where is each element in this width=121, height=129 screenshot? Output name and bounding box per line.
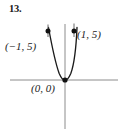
left-point-marker [46, 29, 51, 34]
right-point-marker [72, 29, 77, 34]
origin-point-label: (0, 0) [31, 83, 55, 94]
right-point-label: (1, 5) [77, 29, 101, 40]
origin-point-marker [62, 77, 67, 82]
left-point-label: (−1, 5) [5, 41, 36, 52]
figure-container: 13. (−1, 5) (1, 5) (0, 0) [0, 0, 121, 129]
parabola-plot [0, 0, 121, 129]
parabola-curve [49, 28, 78, 81]
